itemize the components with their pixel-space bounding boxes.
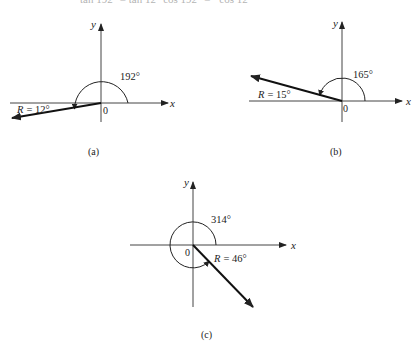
- diagram-b: y x 0 165° R= 15° (b): [249, 17, 411, 158]
- reference-value: = 15°: [267, 89, 290, 100]
- origin-label: 0: [343, 103, 348, 114]
- reference-symbol: R: [213, 253, 221, 264]
- caption: (b): [330, 146, 342, 158]
- angle-label: 192°: [120, 71, 140, 82]
- diagram-a: y x 0 192° R= 12° (a): [10, 18, 175, 158]
- origin-label: 0: [103, 105, 108, 116]
- terminal-vector: [12, 103, 101, 118]
- x-axis-label: x: [169, 97, 175, 109]
- reference-value: = 12°: [26, 104, 49, 115]
- y-axis-label: y: [90, 18, 96, 30]
- x-axis-label: x: [405, 95, 411, 107]
- clipped-top-text: tan 192° = tan 12° cos 192° = −cos 12°: [80, 0, 252, 5]
- reference-value: = 46°: [223, 253, 246, 264]
- reference-symbol: R: [16, 104, 24, 115]
- reference-angle-label: R= 15°: [257, 89, 291, 100]
- terminal-vector: [251, 76, 342, 101]
- angle-label: 314°: [211, 214, 231, 225]
- caption: (c): [201, 329, 212, 341]
- reference-angle-figure: tan 192° = tan 12° cos 192° = −cos 12° y…: [0, 0, 418, 341]
- origin-label: 0: [185, 247, 190, 258]
- y-axis-label: y: [332, 17, 338, 29]
- caption: (a): [88, 146, 99, 158]
- reference-symbol: R: [257, 89, 265, 100]
- reference-angle-label: R= 12°: [16, 104, 50, 115]
- angle-label: 165°: [353, 69, 373, 80]
- diagram-c: y x 0 314° R= 46° (c): [130, 176, 296, 341]
- x-axis-label: x: [290, 239, 296, 251]
- reference-angle-label: R= 46°: [213, 253, 247, 264]
- y-axis-label: y: [183, 176, 189, 188]
